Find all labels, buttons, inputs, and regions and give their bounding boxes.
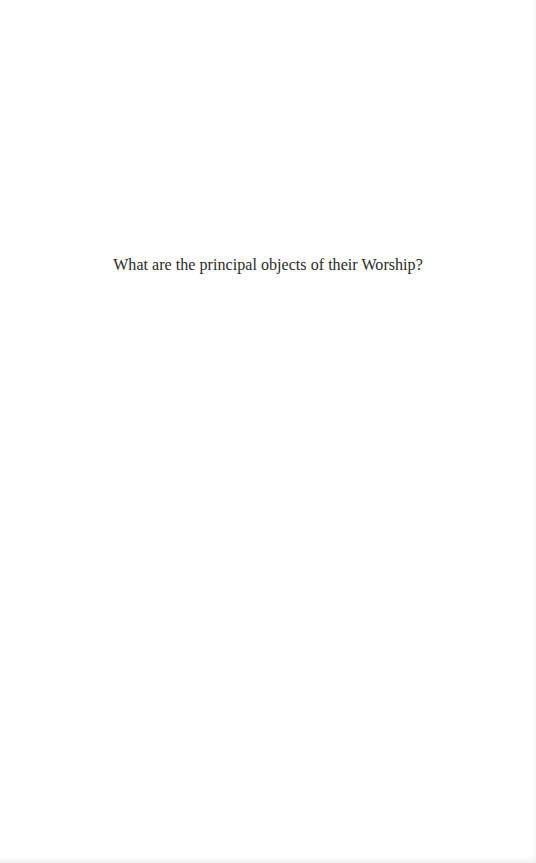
scan-bottom-shadow [0,857,536,863]
question-text: What are the principal objects of their … [0,255,536,275]
document-page: What are the principal objects of their … [0,0,536,863]
scan-edge-shadow [532,0,536,863]
